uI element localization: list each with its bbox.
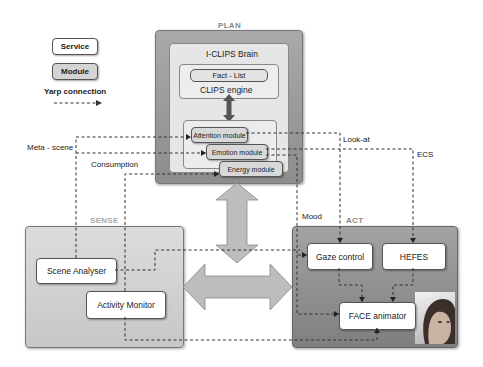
meta-scene-label: Meta - scene: [27, 143, 73, 152]
ecs-label: ECS: [417, 150, 433, 159]
consumption-label: Consumption: [91, 160, 138, 169]
look-at-label: Look-at: [343, 135, 370, 144]
mood-label: Mood: [302, 212, 322, 221]
yarp-connections-layer: [0, 0, 483, 367]
